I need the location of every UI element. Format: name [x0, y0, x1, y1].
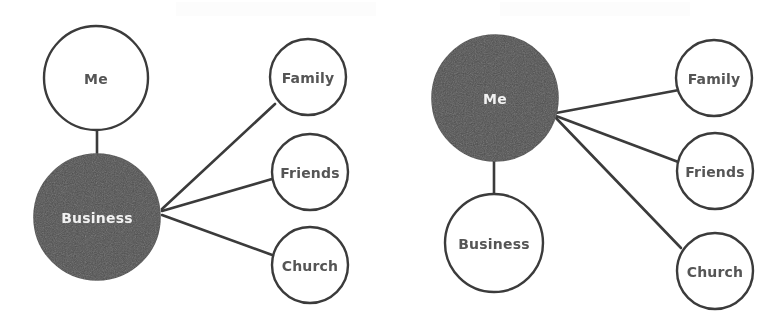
figure-canvas: Me Business Family Friends Church: [0, 0, 782, 331]
edge-business-church: [162, 215, 275, 256]
node-friends-right-label: Friends: [685, 164, 745, 180]
node-friends-left[interactable]: Friends: [272, 134, 348, 210]
node-me-right-label: Me: [483, 91, 507, 107]
right-diagram: Me Business Family Friends Church: [432, 35, 753, 309]
node-family-right-label: Family: [688, 71, 741, 87]
node-business-right-label: Business: [458, 236, 530, 252]
node-business-right[interactable]: Business: [445, 194, 543, 292]
edge-me-friends: [556, 116, 681, 163]
edge-me-church: [556, 118, 681, 248]
node-church-left[interactable]: Church: [272, 227, 348, 303]
node-friends-left-label: Friends: [280, 165, 340, 181]
node-business-left[interactable]: Business: [34, 154, 160, 280]
node-family-left[interactable]: Family: [270, 39, 346, 115]
node-me-left[interactable]: Me: [44, 26, 148, 130]
node-family-right[interactable]: Family: [676, 40, 752, 116]
network-diagram-figure: Me Business Family Friends Church: [0, 0, 782, 331]
node-me-left-label: Me: [84, 71, 108, 87]
node-me-right[interactable]: Me: [432, 35, 558, 161]
node-business-left-label: Business: [61, 210, 133, 226]
edge-me-family: [556, 90, 679, 113]
node-church-right[interactable]: Church: [677, 233, 753, 309]
node-church-left-label: Church: [282, 258, 339, 274]
node-friends-right[interactable]: Friends: [677, 133, 753, 209]
left-diagram: Me Business Family Friends Church: [34, 26, 348, 303]
node-church-right-label: Church: [687, 264, 744, 280]
node-family-left-label: Family: [282, 70, 335, 86]
